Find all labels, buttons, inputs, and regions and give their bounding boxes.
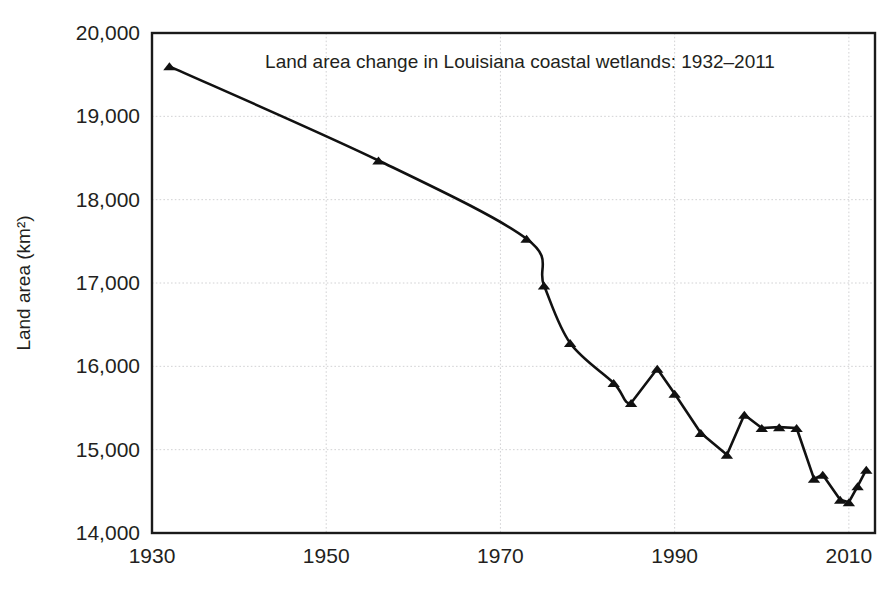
chart-title: Land area change in Louisiana coastal we… (265, 51, 775, 72)
y-tick-label: 17,000 (76, 271, 140, 294)
y-tick-label: 15,000 (76, 438, 140, 461)
y-axis-tick-labels: 14,00015,00016,00017,00018,00019,00020,0… (76, 21, 140, 544)
x-tick-label: 1990 (651, 544, 698, 567)
y-tick-label: 14,000 (76, 521, 140, 544)
y-tick-label: 20,000 (76, 21, 140, 44)
x-tick-label: 1930 (129, 544, 176, 567)
y-tick-label: 19,000 (76, 104, 140, 127)
y-tick-label: 18,000 (76, 188, 140, 211)
x-axis-tick-labels: 19301950197019902010 (129, 544, 873, 567)
y-axis-label: Land area (km²) (13, 215, 34, 350)
x-tick-label: 2010 (826, 544, 873, 567)
chart-figure: 14,00015,00016,00017,00018,00019,00020,0… (0, 0, 893, 590)
x-tick-label: 1970 (477, 544, 524, 567)
line-chart: 14,00015,00016,00017,00018,00019,00020,0… (0, 0, 893, 590)
x-tick-label: 1950 (303, 544, 350, 567)
y-tick-label: 16,000 (76, 354, 140, 377)
